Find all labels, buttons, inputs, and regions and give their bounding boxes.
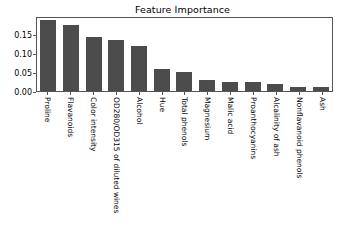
x-axis-tick-mark [276, 92, 277, 95]
bar [176, 72, 192, 91]
bar [222, 82, 238, 91]
bars-layer [37, 18, 332, 91]
x-axis-tick: Color intensity [85, 92, 101, 192]
x-axis-tick-mark [253, 92, 254, 95]
x-axis-tick: Nonflavanoid phenols [291, 92, 307, 192]
x-axis-tick: Hue [154, 92, 170, 192]
x-axis-tick-label: Proanthocyanins [249, 97, 258, 159]
x-axis-tick: Proanthocyanins [245, 92, 261, 192]
x-axis-tick-labels: ProlineFlavanoidsColor intensityOD280/OD… [36, 92, 333, 192]
y-axis-tick-label: 0.10 [14, 49, 32, 58]
x-axis-tick-label: Alcalinity of ash [271, 97, 280, 157]
x-axis-tick: Alcohol [131, 92, 147, 192]
x-axis-tick: Total phenols [176, 92, 192, 192]
x-axis-tick-mark [139, 92, 140, 95]
x-axis-tick: Malic acid [222, 92, 238, 192]
x-axis-tick: Proline [39, 92, 55, 192]
x-axis-tick-label: Hue [157, 97, 166, 112]
x-axis-tick-mark [162, 92, 163, 95]
x-axis-tick-label: Alcohol [134, 97, 143, 124]
bar [63, 25, 79, 91]
x-axis-tick-mark [116, 92, 117, 95]
bar [290, 87, 306, 91]
x-axis-tick-mark [47, 92, 48, 95]
x-axis-tick-label: Flavanoids [66, 97, 75, 137]
x-axis-tick-label: Malic acid [226, 97, 235, 134]
x-axis-tick: Alcalinity of ash [268, 92, 284, 192]
bar [86, 37, 102, 91]
x-axis-tick-mark [299, 92, 300, 95]
x-axis-tick-mark [93, 92, 94, 95]
chart-title: Feature Importance [32, 4, 333, 15]
x-axis-tick-mark [207, 92, 208, 95]
y-axis-tick-labels: 0.000.050.100.15 [0, 17, 32, 92]
x-axis-tick-label: Magnesium [203, 97, 212, 140]
y-axis-tick-label: 0.05 [14, 68, 32, 77]
x-axis-tick-mark [230, 92, 231, 95]
bar [313, 87, 329, 91]
x-axis-tick-label: Nonflavanoid phenols [294, 97, 303, 178]
plot-area [36, 17, 333, 92]
bar [131, 46, 147, 91]
x-axis-tick-label: Total phenols [180, 97, 189, 146]
x-axis-tick: Flavanoids [62, 92, 78, 192]
x-axis-tick-mark [70, 92, 71, 95]
x-axis-tick-label: Proline [43, 97, 52, 122]
x-axis-tick: Magnesium [199, 92, 215, 192]
y-axis-tick-label: 0.00 [14, 88, 32, 97]
x-axis-tick-label: OD280/OD315 of diluted wines [111, 97, 120, 213]
x-axis-tick: Ash [314, 92, 330, 192]
x-axis-tick-label: Ash [317, 97, 326, 111]
figure-canvas: Feature Importance 0.000.050.100.15 Prol… [0, 0, 351, 235]
bar [108, 40, 124, 91]
bar [154, 69, 170, 91]
bar [245, 82, 261, 91]
bar [199, 80, 215, 91]
bar [40, 20, 56, 91]
x-axis-tick: OD280/OD315 of diluted wines [108, 92, 124, 192]
bar [267, 84, 283, 91]
x-axis-tick-mark [322, 92, 323, 95]
y-axis-tick-label: 0.15 [14, 30, 32, 39]
x-axis-tick-mark [184, 92, 185, 95]
x-axis-tick-label: Color intensity [89, 97, 98, 151]
